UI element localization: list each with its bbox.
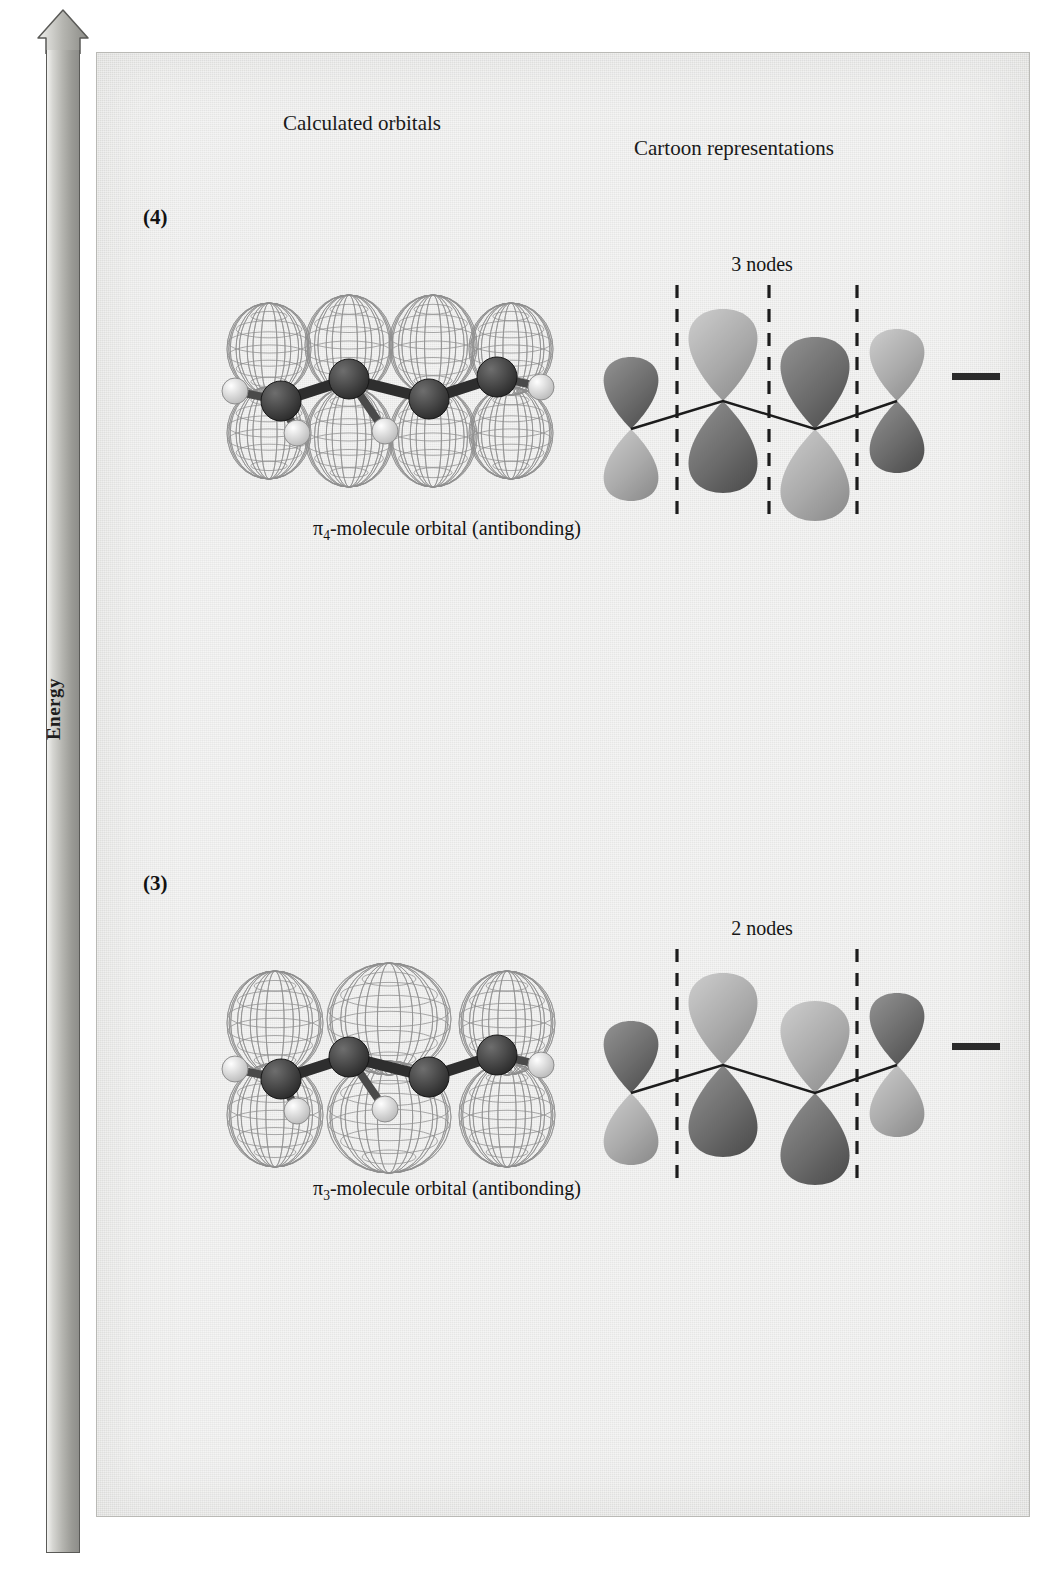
energy-axis-label: Energy — [43, 639, 65, 779]
orbital-energy-level-line — [952, 373, 1000, 380]
cartoon-orbital-graphic — [597, 277, 927, 527]
caption-pi-symbol: π — [313, 1177, 323, 1199]
orbital-occupancy-empty — [943, 1009, 1021, 1085]
column-header-calculated-orbitals: Calculated orbitals — [283, 111, 1030, 136]
column-header-cartoon-representations: Cartoon representations — [634, 136, 1030, 161]
calculated-orbital-graphic — [189, 239, 589, 539]
orbital-level-row-3: (3)2 nodesπ3-molecule orbital (antibondi… — [97, 869, 1030, 1224]
figure-page: Energy Calculated orbitals Cartoon repre… — [0, 0, 1055, 1571]
cartoon-orbital-graphic — [597, 941, 927, 1191]
caption-text: -molecule orbital (antibonding) — [330, 517, 581, 539]
energy-arrow-up-icon — [36, 8, 90, 54]
orbital-occupancy-empty — [943, 339, 1021, 415]
calculated-orbital-image — [189, 917, 589, 1221]
calculated-orbital-image — [189, 239, 589, 543]
energy-axis: Energy — [36, 8, 90, 1553]
node-count-label: 3 nodes — [597, 253, 927, 276]
energy-arrow-shaft — [46, 50, 80, 1553]
orbital-level-row-4: (4)3 nodesπ4-molecule orbital (antibondi… — [97, 199, 1030, 559]
caption-pi-symbol: π — [313, 517, 323, 539]
caption-subscript: 3 — [323, 1188, 330, 1203]
caption-text: -molecule orbital (antibonding) — [330, 1177, 581, 1199]
orbital-energy-level-line — [952, 1043, 1000, 1050]
orbital-level-number: (3) — [143, 871, 168, 896]
calculated-orbital-graphic — [189, 917, 589, 1217]
molecular-orbital-caption: π4-molecule orbital (antibonding) — [207, 517, 687, 544]
orbital-level-number: (4) — [143, 205, 168, 230]
cartoon-representation-image — [597, 277, 927, 531]
diagram-panel: Calculated orbitals Cartoon representati… — [96, 52, 1030, 1517]
cartoon-representation-image — [597, 941, 927, 1195]
caption-subscript: 4 — [323, 528, 330, 543]
node-count-label: 2 nodes — [597, 917, 927, 940]
molecular-orbital-caption: π3-molecule orbital (antibonding) — [207, 1177, 687, 1204]
